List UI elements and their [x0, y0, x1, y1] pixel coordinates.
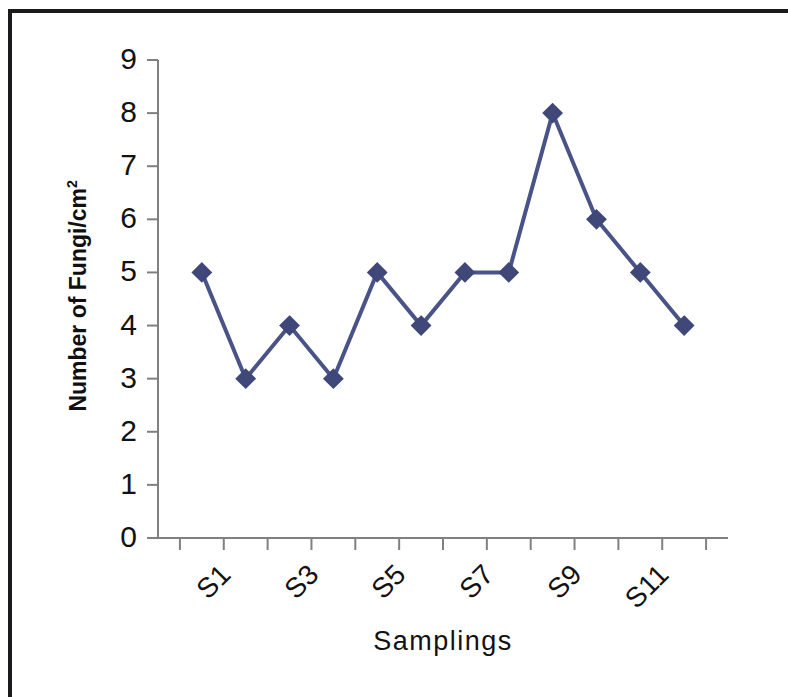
line-chart: 0123456789 S1S3S5S7S9S11 Number of Fungi…	[0, 0, 788, 697]
y-axis-title-text: Number of Fungi/cm	[65, 188, 91, 412]
data-series-line	[202, 113, 684, 379]
y-axis-tick-label: 6	[97, 203, 137, 233]
data-point-marker	[500, 263, 518, 281]
y-axis-tick-label: 8	[97, 97, 137, 127]
y-axis-tick-label: 9	[97, 44, 137, 74]
y-axis-title: Number of Fungi/cm2	[64, 146, 92, 446]
y-axis-tick-label: 2	[97, 416, 137, 446]
y-axis-tick-label: 4	[97, 310, 137, 340]
y-axis-tick-label: 3	[97, 363, 137, 393]
y-axis-tick-label: 0	[97, 522, 137, 552]
data-point-marker	[193, 263, 211, 281]
x-axis-title: Samplings	[158, 626, 728, 657]
data-point-marker	[544, 104, 562, 122]
series-line	[202, 113, 684, 379]
y-axis-title-superscript: 2	[64, 180, 80, 188]
figure-page: 0123456789 S1S3S5S7S9S11 Number of Fungi…	[0, 0, 788, 697]
y-axis-tick-label: 7	[97, 150, 137, 180]
y-axis-tick-label: 5	[97, 256, 137, 286]
y-axis-tick-label: 1	[97, 469, 137, 499]
